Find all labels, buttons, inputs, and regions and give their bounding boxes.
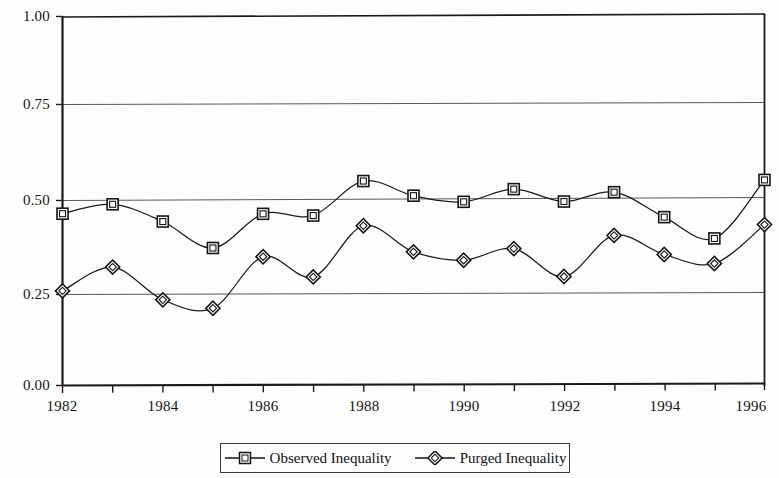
data-point-marker bbox=[408, 190, 419, 201]
diamond-marker-icon bbox=[414, 451, 456, 465]
data-point-marker bbox=[458, 196, 469, 207]
data-point-marker bbox=[207, 242, 218, 253]
x-tick-label-1990: 1990 bbox=[434, 398, 494, 415]
data-point-marker bbox=[358, 176, 369, 187]
data-point-marker bbox=[558, 196, 569, 207]
legend-entry-purged: Purged Inequality bbox=[414, 450, 567, 467]
chart-legend: Observed Inequality Purged Inequality bbox=[220, 443, 570, 473]
data-point-marker bbox=[609, 187, 620, 198]
x-tick-label-1992: 1992 bbox=[535, 398, 595, 415]
data-point-marker bbox=[759, 174, 770, 185]
square-marker-icon bbox=[224, 451, 266, 465]
data-point-marker bbox=[508, 184, 519, 195]
y-tick-label-075: 0.75 bbox=[2, 96, 50, 113]
data-point-marker bbox=[659, 212, 670, 223]
data-point-marker bbox=[57, 208, 68, 219]
y-tick-label-000: 0.00 bbox=[2, 377, 50, 394]
x-tick-label-1984: 1984 bbox=[133, 398, 193, 415]
y-tick-label-025: 0.25 bbox=[2, 286, 50, 303]
x-tick-label-1996: 1996 bbox=[721, 398, 779, 415]
x-tick-label-1986: 1986 bbox=[233, 398, 293, 415]
legend-label-purged: Purged Inequality bbox=[460, 450, 567, 467]
data-point-marker bbox=[258, 208, 269, 219]
y-tick-label-100: 1.00 bbox=[2, 8, 50, 25]
inequality-line-chart: 1.00 0.75 0.50 0.25 0.00 1982 1984 1986 … bbox=[0, 0, 779, 478]
x-tick-label-1982: 1982 bbox=[32, 398, 92, 415]
x-tick-label-1994: 1994 bbox=[635, 398, 695, 415]
legend-entry-observed: Observed Inequality bbox=[224, 450, 392, 467]
data-point-marker bbox=[308, 210, 319, 221]
legend-label-observed: Observed Inequality bbox=[270, 450, 392, 467]
x-tick-label-1988: 1988 bbox=[334, 398, 394, 415]
y-tick-label-050: 0.50 bbox=[2, 192, 50, 209]
data-point-marker bbox=[107, 199, 118, 210]
data-point-marker bbox=[709, 233, 720, 244]
data-point-marker bbox=[157, 216, 168, 227]
